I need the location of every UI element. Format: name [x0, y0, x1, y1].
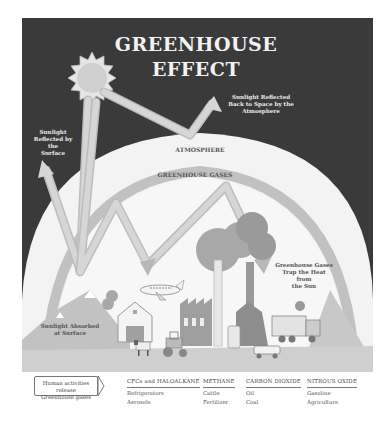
smokestack	[214, 260, 222, 346]
label-line: Reflected by the	[28, 136, 78, 150]
factory	[180, 298, 212, 346]
label-reflected-space: Sunlight Reflected Back to Space by the …	[226, 94, 296, 115]
legend-item: Gasoline	[307, 389, 357, 398]
legend-item: Refrigerators	[127, 389, 200, 398]
label-line: Sunlight	[28, 129, 78, 136]
legend-header: CFCs and HALOALKANE	[127, 377, 200, 388]
title-line-2: EFFECT	[0, 58, 392, 80]
label-line: at Surface	[40, 330, 100, 337]
legend-item: Cattle	[203, 389, 235, 398]
legend-column-nitrous-oxide: NITROUS OXIDE Gasoline Agriculture	[307, 377, 357, 407]
legend-item: Oil	[246, 389, 301, 398]
gas-tank	[228, 326, 240, 348]
legend-intro-line: Greenhouse gases	[35, 394, 97, 401]
legend-item: Fertilizer	[203, 398, 235, 407]
legend-item: Aerosols	[127, 398, 200, 407]
label-atmosphere: ATMOSPHERE	[160, 146, 240, 153]
legend-column-carbon-dioxide: CARBON DIOXIDE Oil Coal	[246, 377, 301, 407]
legend-header: METHANE	[203, 377, 235, 388]
label-line: Trap the Heat from	[274, 269, 334, 283]
legend-intro-line: Human activities release	[35, 380, 97, 394]
label-line: the Sun	[274, 283, 334, 290]
label-line: Back to Space by the	[226, 101, 296, 108]
label-line: Atmosphere	[226, 108, 296, 115]
legend-intro: Human activities release Greenhouse gase…	[34, 376, 98, 396]
legend-column-methane: METHANE Cattle Fertilizer	[203, 377, 235, 407]
label-line: Greenhouse Gases	[274, 262, 334, 269]
label-greenhouse-gases: GREENHOUSE GASES	[150, 171, 240, 178]
label-absorbed: Sunlight Absorbed at Surface	[40, 323, 100, 337]
legend-item: Coal	[246, 398, 301, 407]
label-line: Sunlight Reflected	[226, 94, 296, 101]
legend-column-cfcs: CFCs and HALOALKANE Refrigerators Aeroso…	[127, 377, 200, 407]
label-trap-heat: Greenhouse Gases Trap the Heat from the …	[274, 262, 334, 290]
legend-header: NITROUS OXIDE	[307, 377, 357, 388]
legend-header: CARBON DIOXIDE	[246, 377, 301, 388]
label-line: Sunlight Absorbed	[40, 323, 100, 330]
legend-item: Agriculture	[307, 398, 357, 407]
label-reflected-surface: Sunlight Reflected by the Surface	[28, 129, 78, 157]
legend-arrow	[98, 376, 104, 396]
label-line: Surface	[28, 150, 78, 157]
title-line-1: GREENHOUSE	[0, 33, 392, 55]
